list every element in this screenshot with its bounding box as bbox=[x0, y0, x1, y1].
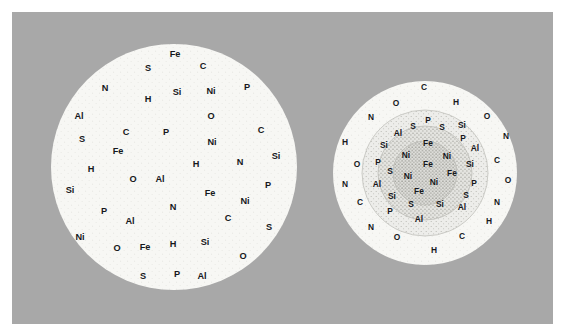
element-label-h: H bbox=[486, 216, 492, 226]
element-label-p: P bbox=[244, 82, 250, 92]
element-label-n: N bbox=[503, 131, 509, 141]
element-label-al: Al bbox=[458, 202, 466, 212]
element-label-si: Si bbox=[173, 87, 182, 97]
element-label-si: Si bbox=[458, 120, 466, 130]
element-label-n: N bbox=[368, 222, 374, 232]
element-label-c: C bbox=[200, 61, 207, 71]
element-label-o: O bbox=[393, 98, 400, 108]
element-label-o: O bbox=[129, 174, 136, 184]
element-label-ni: Ni bbox=[207, 137, 216, 147]
element-label-n: N bbox=[342, 179, 348, 189]
element-label-al: Al bbox=[394, 128, 402, 138]
element-label-s: S bbox=[408, 199, 414, 209]
element-label-ni: Ni bbox=[75, 232, 84, 242]
element-label-o: O bbox=[207, 111, 214, 121]
element-label-fe: Fe bbox=[423, 159, 433, 169]
element-label-s: S bbox=[79, 134, 85, 144]
element-label-fe: Fe bbox=[113, 146, 124, 156]
element-label-ni: Ni bbox=[402, 150, 410, 160]
element-label-fe: Fe bbox=[140, 242, 151, 252]
element-label-p: P bbox=[265, 180, 271, 190]
element-label-fe: Fe bbox=[170, 49, 181, 59]
element-label-ni: Ni bbox=[443, 151, 451, 161]
element-label-c: C bbox=[421, 82, 427, 92]
element-label-s: S bbox=[463, 190, 469, 200]
element-label-si: Si bbox=[380, 140, 388, 150]
element-label-h: H bbox=[453, 97, 459, 107]
element-label-s: S bbox=[410, 121, 416, 131]
element-label-o: O bbox=[505, 175, 512, 185]
element-label-p: P bbox=[471, 178, 477, 188]
element-label-si: Si bbox=[272, 151, 281, 161]
element-label-n: N bbox=[170, 202, 177, 212]
element-label-p: P bbox=[163, 127, 169, 137]
element-label-h: H bbox=[193, 159, 200, 169]
element-label-si: Si bbox=[201, 237, 210, 247]
element-label-al: Al bbox=[155, 174, 164, 184]
element-label-h: H bbox=[88, 164, 95, 174]
element-label-o: O bbox=[484, 111, 491, 121]
element-label-n: N bbox=[368, 112, 374, 122]
element-label-h: H bbox=[342, 137, 348, 147]
element-label-al: Al bbox=[74, 111, 83, 121]
element-label-o: O bbox=[354, 159, 361, 169]
element-label-si: Si bbox=[66, 185, 75, 195]
element-label-p: P bbox=[101, 206, 107, 216]
element-label-n: N bbox=[102, 83, 109, 93]
element-label-si: Si bbox=[436, 199, 444, 209]
element-label-h: H bbox=[431, 245, 437, 255]
element-label-n: N bbox=[237, 157, 244, 167]
zoned-particle-group: COHNOPSSSiAlHNSiPFeAlNiNiOPCFeSiSNiFeNAl… bbox=[333, 81, 517, 265]
element-label-h: H bbox=[145, 94, 152, 104]
element-label-s: S bbox=[439, 122, 445, 132]
element-label-o: O bbox=[394, 232, 401, 242]
element-label-ni: Ni bbox=[404, 171, 412, 181]
element-label-o: O bbox=[113, 243, 120, 253]
element-label-o: O bbox=[239, 251, 246, 261]
element-label-c: C bbox=[123, 127, 130, 137]
element-label-al: Al bbox=[197, 271, 206, 281]
element-label-c: C bbox=[225, 213, 232, 223]
element-label-ni: Ni bbox=[240, 196, 249, 206]
element-label-al: Al bbox=[373, 179, 381, 189]
element-label-ni: Ni bbox=[206, 86, 215, 96]
element-label-c: C bbox=[357, 197, 363, 207]
element-label-fe: Fe bbox=[447, 168, 457, 178]
element-label-si: Si bbox=[466, 159, 474, 169]
element-label-al: Al bbox=[415, 214, 423, 224]
element-label-c: C bbox=[459, 231, 465, 241]
element-label-p: P bbox=[387, 206, 393, 216]
element-label-p: P bbox=[375, 157, 381, 167]
element-label-fe: Fe bbox=[205, 188, 216, 198]
element-label-c: C bbox=[494, 155, 500, 165]
element-label-c: C bbox=[258, 125, 265, 135]
element-label-h: H bbox=[170, 239, 177, 249]
element-label-s: S bbox=[266, 222, 272, 232]
element-label-fe: Fe bbox=[414, 186, 424, 196]
element-label-s: S bbox=[145, 63, 151, 73]
figure-root: FeSCNSiNiPHAlOCPSCNiFeSiHHNOAlSiPFeNNiPA… bbox=[0, 0, 565, 335]
element-label-p: P bbox=[425, 115, 431, 125]
element-label-p: P bbox=[174, 269, 180, 279]
element-label-fe: Fe bbox=[423, 138, 433, 148]
element-label-al: Al bbox=[471, 143, 479, 153]
element-label-ni: Ni bbox=[430, 177, 438, 187]
element-label-s: S bbox=[387, 166, 393, 176]
element-label-al: Al bbox=[125, 216, 134, 226]
element-label-n: N bbox=[494, 197, 500, 207]
element-label-p: P bbox=[460, 133, 466, 143]
element-label-s: S bbox=[140, 271, 146, 281]
element-label-si: Si bbox=[388, 191, 396, 201]
homogeneous-particle-group: FeSCNSiNiPHAlOCPSCNiFeSiHHNOAlSiPFeNNiPA… bbox=[51, 44, 297, 290]
particle-diagram: FeSCNSiNiPHAlOCPSCNiFeSiHHNOAlSiPFeNNiPA… bbox=[0, 0, 565, 335]
